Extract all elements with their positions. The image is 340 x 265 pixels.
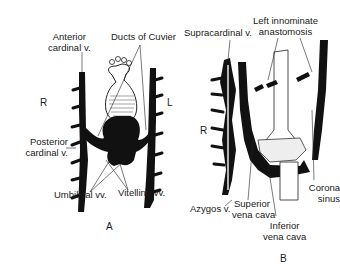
- left-cardinal-remnant: [312, 40, 328, 160]
- label-line: Inferior: [263, 221, 306, 232]
- side-label-right-a: R: [40, 98, 47, 109]
- label-line: Superior: [232, 199, 275, 210]
- panel-label-b: B: [280, 254, 287, 265]
- venous-development-figure: Anterior cardinal v. Ducts of Cuvier R L…: [0, 0, 340, 265]
- label-umbilical-veins: Umbilical vv.: [54, 190, 107, 201]
- label-line: cardinal v.: [48, 43, 91, 54]
- label-line: Left innominate: [253, 16, 318, 27]
- label-inferior-vena-cava: Inferior vena cava: [263, 221, 306, 242]
- label-posterior-cardinal: Posterior cardinal v.: [14, 137, 68, 158]
- label-line: anastomosis: [253, 27, 318, 38]
- label-ducts-of-cuvier: Ducts of Cuvier: [111, 32, 176, 43]
- label-supracardinal: Supracardinal v.: [184, 28, 252, 39]
- heart-tube: [105, 64, 136, 120]
- sinus-venosus: [86, 116, 150, 166]
- heart-region: [258, 138, 306, 162]
- label-azygos: Azygos v.: [190, 204, 230, 215]
- label-line: Corona: [296, 183, 340, 194]
- label-line: Anterior: [48, 32, 91, 43]
- aorta: [266, 50, 296, 150]
- label-left-innominate: Left innominate anastomosis: [253, 16, 318, 37]
- side-label-left-a: L: [167, 98, 173, 109]
- label-coronary-sinus: Corona sinus: [296, 183, 340, 204]
- right-cardinal-tributaries: [72, 88, 80, 198]
- label-line: Posterior: [14, 137, 68, 148]
- label-anterior-cardinal: Anterior cardinal v.: [48, 32, 91, 53]
- label-line: sinus: [296, 194, 340, 205]
- label-line: vena cava: [263, 232, 306, 243]
- label-line: cardinal v.: [14, 148, 68, 159]
- label-superior-vena-cava: Superior vena cava: [232, 199, 275, 220]
- side-label-right-b: R: [200, 126, 207, 137]
- label-vitelline-veins: Vitelline vv.: [118, 188, 165, 199]
- panel-label-a: A: [106, 222, 113, 233]
- label-line: vena cava: [232, 210, 275, 221]
